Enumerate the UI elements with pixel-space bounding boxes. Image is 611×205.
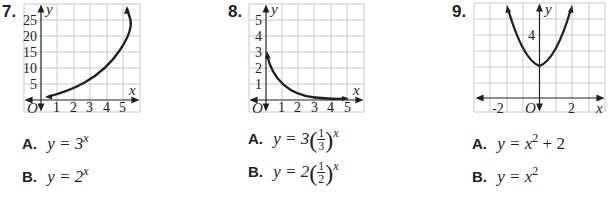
equation: y = x2 — [497, 167, 538, 186]
option-letter: B. — [472, 168, 487, 185]
equation: y = x2 + 2 — [497, 134, 565, 153]
y-axis-label: y — [543, 1, 552, 17]
y-tick: 4 — [528, 28, 535, 43]
x-axis-label: x — [595, 100, 603, 116]
x-tick: 2 — [568, 101, 575, 116]
x-tick: -2 — [492, 101, 504, 116]
option-b[interactable]: B. y = x2 — [472, 164, 538, 187]
option-a[interactable]: A. y = x2 + 2 — [472, 131, 565, 154]
option-letter: A. — [472, 135, 487, 152]
origin-label: O — [525, 100, 536, 116]
